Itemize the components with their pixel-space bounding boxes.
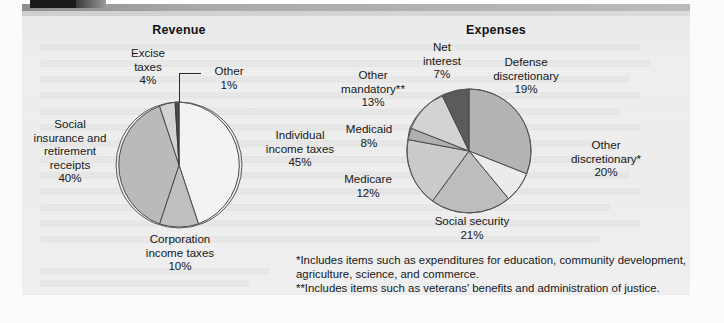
footnotes-block: *Includes items such as expenditures for…: [296, 253, 706, 296]
expenses-label-medicaid: Medicaid 8%: [334, 122, 404, 149]
expenses-label-medicare: Medicare 12%: [332, 172, 404, 199]
expenses-label-net-interest: Net interest 7%: [412, 40, 472, 81]
footnote-double-star: **Includes items such as veterans' benef…: [296, 281, 706, 295]
revenue-label-corporation-income-taxes: Corporation income taxes 10%: [130, 232, 230, 273]
page-top-black-block: [30, 0, 76, 8]
page-left-margin: [0, 0, 22, 323]
revenue-chart-title: Revenue: [129, 23, 229, 37]
expenses-chart-title: Expenses: [446, 23, 546, 37]
page-top-band: [22, 4, 722, 11]
bleed-through-line: [40, 280, 250, 287]
page-top-band-shadow: [22, 11, 722, 16]
revenue-label-excise-taxes: Excise taxes 4%: [115, 46, 181, 87]
revenue-pie-chart: [113, 101, 245, 229]
revenue-label-social-insurance: Social insurance and retirement receipts…: [24, 117, 116, 185]
page-top-black-block-fade: [76, 0, 106, 8]
expenses-pie-chart: [405, 87, 533, 215]
footnote-single-star: *Includes items such as expenditures for…: [296, 253, 706, 281]
page-bottom-margin: [0, 295, 724, 323]
expenses-label-social-security: Social security 21%: [412, 214, 532, 241]
expenses-label-defense-discretionary: Defense discretionary 19%: [483, 55, 569, 96]
revenue-label-other: Other 1%: [198, 64, 260, 91]
page-right-margin: [690, 0, 724, 323]
expenses-label-other-discretionary: Other discretionary* 20%: [556, 138, 656, 179]
scanned-figure-page: Revenue Excise taxes 4% Other 1% Social …: [0, 0, 724, 323]
expenses-label-other-mandatory: Other mandatory** 13%: [330, 68, 416, 109]
